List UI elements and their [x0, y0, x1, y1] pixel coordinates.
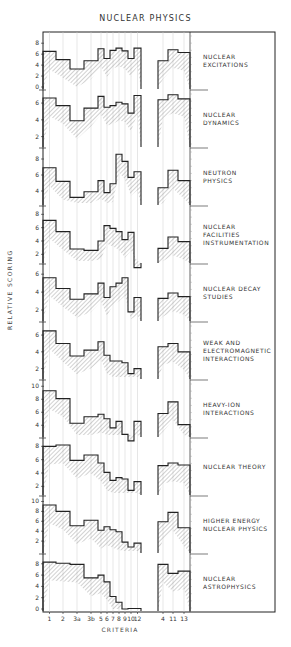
panel-higher-energy-nuclear-physics: 246810HIGHER ENERGYNUCLEAR PHYSICS	[31, 496, 267, 553]
svg-text:6: 6	[35, 224, 39, 231]
svg-text:2: 2	[35, 537, 39, 544]
panel-label: FACILITIES	[203, 231, 240, 238]
x-tick-label: 12	[134, 615, 142, 622]
panel-label: NUCLEAR	[203, 223, 236, 230]
x-tick-label: 1	[48, 615, 52, 622]
svg-text:8: 8	[35, 155, 39, 162]
x-tick-label: 6	[105, 615, 109, 622]
panel-heavy-ion-interactions: 46810HEAVY-IONINTERACTIONS	[31, 380, 254, 441]
svg-text:6: 6	[35, 456, 39, 463]
svg-text:4: 4	[35, 116, 39, 123]
svg-text:4: 4	[35, 61, 39, 68]
svg-text:10: 10	[31, 382, 39, 389]
svg-text:8: 8	[35, 560, 39, 567]
panel-label: NUCLEAR	[203, 53, 236, 60]
panel-label: INTERACTIONS	[203, 409, 254, 416]
panel-label: NUCLEAR	[203, 575, 236, 582]
panel-label: HEAVY-ION	[203, 401, 241, 408]
panel-label: STUDIES	[203, 293, 233, 300]
svg-text:4: 4	[35, 582, 39, 589]
svg-text:6: 6	[35, 270, 39, 277]
panel-nuclear-decay-studies: 246NUCLEAR DECAYSTUDIES	[35, 264, 261, 321]
x-axis: 123a3b56789101241113	[48, 612, 188, 622]
x-tick-label: 11	[169, 615, 177, 622]
svg-text:10: 10	[31, 497, 39, 504]
x-tick-label: 3b	[87, 615, 95, 622]
svg-text:2: 2	[35, 365, 39, 372]
panel-label: DYNAMICS	[203, 119, 239, 126]
svg-text:0: 0	[35, 83, 39, 90]
panel-label: INSTRUMENTATION	[203, 239, 269, 246]
panel-label: NUCLEAR DECAY	[203, 285, 261, 292]
svg-text:6: 6	[35, 571, 39, 578]
svg-text:8: 8	[35, 39, 39, 46]
svg-text:8: 8	[35, 395, 39, 402]
svg-text:6: 6	[35, 331, 39, 338]
svg-text:2: 2	[35, 250, 39, 257]
x-tick-label: 5	[99, 615, 103, 622]
svg-text:2: 2	[35, 482, 39, 489]
svg-text:4: 4	[35, 288, 39, 295]
svg-text:8: 8	[35, 442, 39, 449]
svg-text:6: 6	[35, 171, 39, 178]
x-tick-label: 2	[61, 615, 65, 622]
x-tick-label: 3a	[73, 615, 81, 622]
svg-text:2: 2	[35, 72, 39, 79]
svg-text:8: 8	[35, 507, 39, 514]
x-tick-label: 8	[117, 615, 121, 622]
svg-text:4: 4	[35, 348, 39, 355]
panel-label: INTERACTIONS	[203, 355, 254, 362]
panel-label: HIGHER ENERGY	[203, 517, 260, 524]
x-tick-label: 7	[111, 615, 115, 622]
panel-label: WEAK AND	[203, 339, 241, 346]
panel-nuclear-dynamics: 246NUCLEARDYNAMICS	[35, 90, 239, 147]
panel-label: NEUTRON	[203, 169, 237, 176]
panel-label: NUCLEAR THEORY	[203, 463, 266, 470]
svg-text:2: 2	[35, 306, 39, 313]
x-tick-label: 4	[161, 615, 165, 622]
panel-nuclear-astrophysics: 02468NUCLEARASTROPHYSICS	[35, 554, 256, 612]
panel-nuclear-excitations: 02468NUCLEAREXCITATIONS	[35, 36, 248, 90]
panel-label: ELECTROMAGNETIC	[203, 347, 271, 354]
panel-label: PHYSICS	[203, 177, 233, 184]
stacked-histogram-chart: 02468NUCLEAREXCITATIONS246NUCLEARDYNAMIC…	[0, 0, 291, 647]
panel-nuclear-facilities-instrumentation: 2468NUCLEARFACILITIESINSTRUMENTATION	[35, 206, 269, 268]
svg-text:4: 4	[35, 237, 39, 244]
svg-text:0: 0	[35, 605, 39, 612]
svg-text:2: 2	[35, 133, 39, 140]
chart-panels: 02468NUCLEAREXCITATIONS246NUCLEARDYNAMIC…	[31, 32, 275, 622]
svg-text:6: 6	[35, 408, 39, 415]
panel-neutron-physics: 468NEUTRONPHYSICS	[35, 148, 237, 205]
panel-label: EXCITATIONS	[203, 61, 248, 68]
panel-label: NUCLEAR	[203, 111, 236, 118]
panel-nuclear-theory: 2468NUCLEAR THEORY	[35, 438, 266, 495]
panel-label: ASTROPHYSICS	[203, 583, 256, 590]
svg-text:2: 2	[35, 594, 39, 601]
panel-label: NUCLEAR PHYSICS	[203, 525, 268, 532]
svg-text:8: 8	[35, 210, 39, 217]
svg-text:6: 6	[35, 50, 39, 57]
panel-weak-and-electromagnetic-interactions: 246WEAK ANDELECTROMAGNETICINTERACTIONS	[35, 322, 271, 379]
svg-text:4: 4	[35, 421, 39, 428]
svg-text:4: 4	[35, 187, 39, 194]
x-tick-label: 13	[180, 615, 188, 622]
svg-text:4: 4	[35, 527, 39, 534]
svg-text:6: 6	[35, 517, 39, 524]
svg-text:6: 6	[35, 99, 39, 106]
svg-text:4: 4	[35, 469, 39, 476]
